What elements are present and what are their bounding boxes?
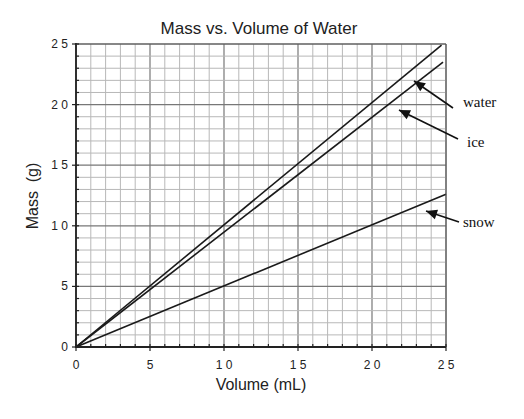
mass-volume-chart: Mass vs. Volume of Water 051 01 52 02 50… bbox=[0, 0, 524, 419]
y-axis-label: Mass (g) bbox=[24, 163, 41, 230]
arrowhead-water-icon bbox=[414, 81, 426, 91]
annotation-label-ice: ice bbox=[467, 134, 485, 150]
y-tick-label: 1 0 bbox=[51, 219, 68, 233]
y-tick-label: 0 bbox=[61, 340, 68, 354]
x-tick-label: 1 0 bbox=[216, 358, 233, 372]
y-tick-label: 5 bbox=[61, 279, 68, 293]
x-tick-label: 5 bbox=[147, 358, 154, 372]
chart-title: Mass vs. Volume of Water bbox=[161, 19, 358, 38]
data-series bbox=[76, 45, 446, 347]
arrowhead-snow-icon bbox=[426, 210, 438, 219]
y-tick-label: 1 5 bbox=[51, 158, 68, 172]
annotation-label-water: water bbox=[463, 94, 496, 110]
tick-labels: 051 01 52 02 5051 01 52 02 5 bbox=[51, 37, 454, 372]
x-tick-label: 0 bbox=[73, 358, 80, 372]
x-tick-label: 1 5 bbox=[290, 358, 307, 372]
x-axis-label: Volume (mL) bbox=[216, 376, 307, 393]
x-tick-label: 2 5 bbox=[438, 358, 455, 372]
y-tick-label: 2 0 bbox=[51, 98, 68, 112]
y-tick-label: 2 5 bbox=[51, 37, 68, 51]
annotation-label-snow: snow bbox=[463, 214, 495, 230]
x-tick-label: 2 0 bbox=[364, 358, 381, 372]
series-line-snow bbox=[76, 194, 446, 347]
